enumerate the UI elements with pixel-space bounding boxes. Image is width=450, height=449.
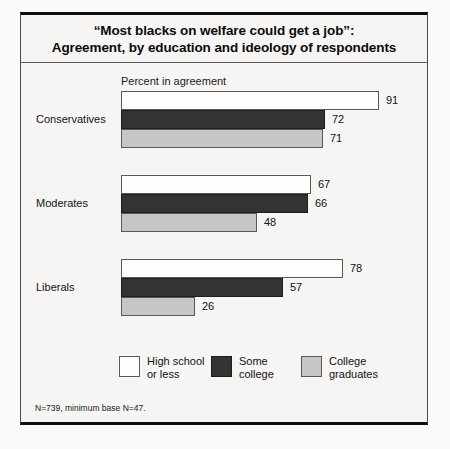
bar-value-label: 71 [330, 132, 342, 144]
legend-item: Collegegraduates [301, 355, 378, 380]
bar-row: 72 [121, 110, 421, 129]
bar-row: 78 [121, 259, 421, 278]
legend-label-line1: Some [239, 355, 274, 368]
bar-value-label: 67 [318, 178, 330, 190]
page-title: “Most blacks on welfare could get a job”… [31, 22, 417, 39]
plot-area: Percent in agreement Conservatives917271… [21, 63, 427, 335]
chart-footnote: N=739, minimum base N=47. [35, 403, 146, 413]
legend-swatch [211, 356, 232, 377]
bar [121, 175, 311, 194]
bar [121, 213, 257, 232]
legend-label-line2: or less [147, 368, 204, 381]
legend-label-line1: College [329, 355, 378, 368]
bar-row: 71 [121, 129, 421, 148]
chart-title-block: “Most blacks on welfare could get a job”… [21, 15, 427, 63]
bar [121, 194, 308, 213]
bar-value-label: 78 [350, 262, 362, 274]
bar [121, 297, 195, 316]
legend-label-line2: graduates [329, 368, 378, 381]
bar-value-label: 57 [290, 281, 302, 293]
group-label: Conservatives [36, 113, 106, 125]
legend-swatch [301, 356, 322, 377]
bar-row: 91 [121, 91, 421, 110]
legend-label: Collegegraduates [329, 355, 378, 380]
legend-label-line2: college [239, 368, 274, 381]
bar-value-label: 72 [332, 113, 344, 125]
group-label: Liberals [36, 281, 75, 293]
bar [121, 278, 283, 297]
legend-label-line1: High school [147, 355, 204, 368]
legend-label: High schoolor less [147, 355, 204, 380]
bar-row: 66 [121, 194, 421, 213]
page-subtitle: Agreement, by education and ideology of … [31, 39, 417, 56]
bar-row: 48 [121, 213, 421, 232]
bar-row: 26 [121, 297, 421, 316]
bar-value-label: 66 [315, 197, 327, 209]
chart-figure: “Most blacks on welfare could get a job”… [20, 12, 428, 425]
bar [121, 91, 379, 110]
legend-item: Somecollege [211, 355, 274, 380]
bar [121, 259, 343, 278]
bar-value-label: 48 [264, 216, 276, 228]
bar [121, 110, 325, 129]
bar [121, 129, 323, 148]
legend-swatch [119, 356, 140, 377]
legend-label: Somecollege [239, 355, 274, 380]
bar-group-liberals: Liberals785726 [21, 259, 427, 316]
group-label: Moderates [36, 197, 88, 209]
bar-group-conservatives: Conservatives917271 [21, 91, 427, 148]
bar-value-label: 26 [202, 300, 214, 312]
bar-value-label: 91 [386, 94, 398, 106]
bar-row: 67 [121, 175, 421, 194]
bar-row: 57 [121, 278, 421, 297]
legend-item: High schoolor less [119, 355, 204, 380]
bar-group-moderates: Moderates676648 [21, 175, 427, 232]
axis-caption: Percent in agreement [121, 75, 226, 87]
chart-legend: High schoolor lessSomecollegeCollegegrad… [21, 355, 427, 395]
